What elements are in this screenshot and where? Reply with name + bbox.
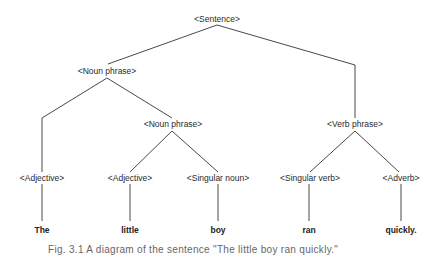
edge-sentence-vp-a (217, 25, 355, 65)
node-sentence: <Sentence> (193, 14, 241, 24)
word-ran: ran (302, 225, 315, 235)
node-adjective-2: <Adjective> (107, 173, 153, 183)
node-noun-phrase-2: <Noun phrase> (143, 119, 204, 129)
word-quickly: quickly. (385, 225, 416, 235)
node-singular-verb: <Singular verb> (279, 173, 341, 183)
edge-vp-verb (310, 131, 355, 172)
word-little: little (121, 225, 138, 235)
node-singular-noun: <Singular noun> (186, 173, 250, 183)
edge-np2-adj2 (130, 131, 172, 172)
edge-sentence-np1 (108, 25, 217, 64)
node-verb-phrase: <Verb phrase> (326, 119, 384, 129)
edge-np2-noun (172, 131, 218, 172)
word-the: The (34, 225, 49, 235)
word-boy: boy (210, 225, 225, 235)
node-noun-phrase-1: <Noun phrase> (77, 66, 138, 76)
node-adjective-1: <Adjective> (19, 173, 65, 183)
edge-np1-adj1-a (42, 78, 107, 118)
edge-vp-adverb (355, 131, 399, 172)
figure-caption: Fig. 3.1 A diagram of the sentence "The … (48, 244, 338, 255)
edge-np1-np2 (107, 78, 172, 118)
node-adverb: <Adverb> (382, 173, 421, 183)
